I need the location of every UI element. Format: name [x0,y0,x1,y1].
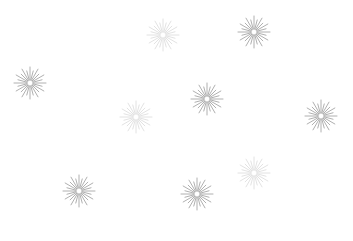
starburst-canvas [0,0,353,241]
background [0,0,353,241]
